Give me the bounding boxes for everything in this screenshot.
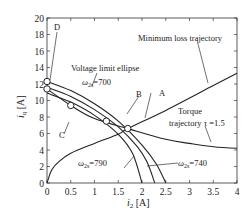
point-c-label: C	[59, 130, 65, 140]
y-tick-label: 10	[35, 96, 45, 106]
operating-point-d	[44, 78, 50, 84]
x-tick-label: 2.5	[160, 187, 172, 197]
omega-740-label: ω2s=740	[178, 158, 207, 169]
curves	[47, 73, 237, 183]
y-tick-label: 2	[39, 162, 44, 172]
omega-700-label: ω2s=700	[82, 77, 111, 88]
point-d-label: D	[54, 22, 60, 32]
y-tick-label: 0	[39, 179, 44, 189]
x-tick-label: 0.5	[65, 187, 77, 197]
x-tick-label: 3.5	[207, 187, 219, 197]
x-tick-label: 2	[140, 187, 145, 197]
y-tick-label: 20	[35, 14, 45, 24]
y-tick-label: 16	[35, 47, 45, 57]
operating-point-a	[125, 125, 131, 131]
series-curve-3	[47, 73, 237, 183]
y-tick-label: 12	[35, 80, 45, 90]
x-tick-label: 0	[45, 187, 50, 197]
y-tick-label: 4	[39, 146, 44, 156]
y-tick-label: 8	[39, 113, 44, 123]
torque-label-line2: trajectory τ =1.5	[169, 118, 225, 128]
point-b-label: B	[136, 89, 142, 99]
omega-790-label: ω2s=790	[78, 158, 107, 169]
y-tick-label: 14	[35, 63, 45, 73]
torque-label-line1: Torque	[178, 106, 202, 116]
x-tick-label: 3	[187, 187, 192, 197]
y-tick-label: 6	[39, 129, 44, 139]
voltage-limit-label: Voltage limit ellipse	[71, 63, 140, 73]
y-tick-labels: 02468101214161820	[35, 14, 45, 189]
x-tick-label: 4	[235, 187, 240, 197]
y-axis-title: iq [A]	[15, 95, 28, 118]
operating-point-b	[103, 118, 109, 124]
point-a-label: A	[159, 88, 166, 98]
x-tick-label: 1.5	[112, 187, 124, 197]
x-tick-labels: 00.511.522.533.54	[45, 187, 240, 197]
x-tick-label: 1	[92, 187, 97, 197]
axis-intersection-point	[44, 86, 50, 92]
min-loss-label: Minimum loss trajectory	[138, 33, 223, 43]
operating-point-c	[68, 102, 74, 108]
current-trajectory-chart: 00.511.522.533.54 02468101214161820 Mini…	[0, 0, 251, 217]
y-tick-label: 18	[35, 30, 45, 40]
x-axis-title: i2 [A]	[127, 197, 150, 210]
